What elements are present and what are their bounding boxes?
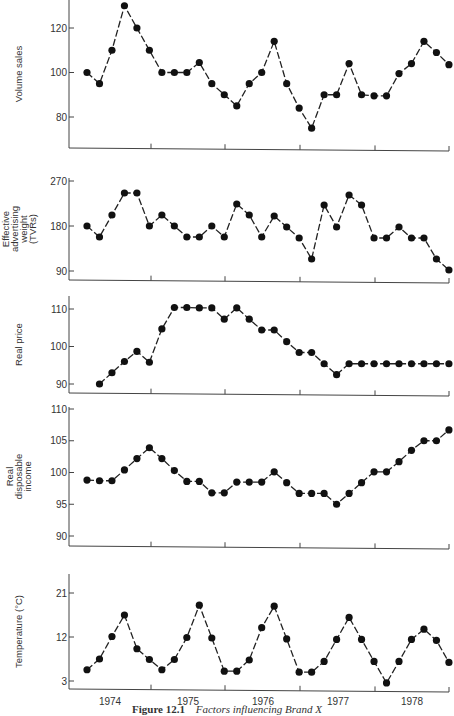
data-point [420,360,427,367]
series-line [87,6,449,128]
panel-4: 9095100105110Realdisposableincome [4,404,453,550]
panel-3: 90100110Real price [13,296,453,396]
data-point [258,69,265,76]
y-tick-label: 105 [50,435,67,446]
data-point [321,201,328,208]
data-point [308,490,315,497]
y-tick-label: 110 [51,404,67,415]
data-point [321,91,328,98]
data-point [208,489,215,496]
multi-panel-line-chart: 80100120Volume sales90180270Effectiveadv… [0,0,454,716]
data-point [383,360,390,367]
data-point [333,223,340,230]
data-point [196,59,203,66]
x-axis [69,280,449,283]
data-point [433,49,440,56]
data-point [370,468,377,475]
data-point [271,468,278,475]
series-line [87,605,449,683]
data-point [121,611,128,618]
data-point [321,490,328,497]
data-point [96,380,103,387]
data-point [333,91,340,98]
data-point [395,223,402,230]
data-point [83,222,90,229]
data-point [283,223,290,230]
data-point [345,60,352,67]
data-point [108,47,115,54]
y-axis-label: income [22,461,33,492]
data-point [345,191,352,198]
y-tick-label: 120 [50,23,67,34]
data-point [246,211,253,218]
data-point [183,69,190,76]
data-point [296,105,303,112]
data-point [108,369,115,376]
data-point [146,359,153,366]
data-point [358,201,365,208]
data-point [146,444,153,451]
x-axis [69,148,449,151]
data-point [83,477,90,484]
data-point [370,92,377,99]
y-tick-label: 100 [50,467,67,478]
y-tick-label: 110 [51,304,67,315]
data-point [221,668,228,675]
data-point [370,360,377,367]
data-point [221,91,228,98]
data-point [108,633,115,640]
data-point [333,636,340,643]
figure-number: Figure 12.1 [132,703,185,715]
data-point [196,478,203,485]
data-point [395,458,402,465]
data-point [121,2,128,9]
data-point [308,349,315,356]
data-point [433,437,440,444]
data-point [420,437,427,444]
data-point [258,326,265,333]
data-point [171,304,178,311]
data-point [321,658,328,665]
data-point [333,371,340,378]
x-axis [69,689,449,692]
data-point [258,478,265,485]
data-point [158,211,165,218]
y-tick-label: 100 [50,341,67,352]
data-point [420,234,427,241]
data-point [146,222,153,229]
data-point [296,234,303,241]
data-point [233,478,240,485]
data-point [121,358,128,365]
data-point [246,316,253,323]
data-point [158,69,165,76]
data-point [358,360,365,367]
data-point [445,659,452,666]
data-point [433,637,440,644]
data-point [283,479,290,486]
data-point [96,477,103,484]
data-point [208,304,215,311]
y-axis-label: (TVRs) [27,214,38,244]
data-point [196,233,203,240]
data-point [358,91,365,98]
data-point [420,626,427,633]
y-tick-label: 3 [61,676,67,687]
data-point [433,255,440,262]
x-axis [69,546,449,549]
data-point [408,360,415,367]
data-point [171,222,178,229]
data-point [208,80,215,87]
data-point [158,455,165,462]
y-axis-label: Volume sales [13,46,24,103]
data-point [171,656,178,663]
data-point [358,479,365,486]
data-point [208,222,215,229]
data-point [108,211,115,218]
data-point [196,602,203,609]
data-point [83,69,90,76]
series-line [87,430,449,504]
data-point [246,656,253,663]
data-point [183,304,190,311]
data-point [133,24,140,31]
data-point [296,349,303,356]
